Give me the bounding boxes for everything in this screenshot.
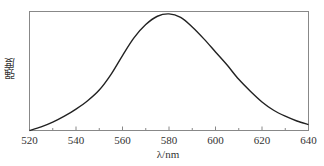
x-axis-ticks bbox=[30, 127, 309, 131]
chart: 520540560580600620640 λ/nm bbox=[0, 0, 324, 166]
y-axis-title: 强度 bbox=[4, 58, 18, 80]
x-tick-label: 520 bbox=[21, 134, 38, 146]
spectrum-curve bbox=[30, 14, 309, 131]
x-tick-label: 540 bbox=[68, 134, 85, 146]
x-tick-label: 560 bbox=[114, 134, 131, 146]
x-axis-tick-labels: 520540560580600620640 bbox=[21, 134, 317, 146]
x-tick-label: 640 bbox=[300, 134, 317, 146]
x-axis-title: λ/nm bbox=[157, 148, 180, 160]
x-tick-label: 620 bbox=[254, 134, 271, 146]
x-tick-label: 600 bbox=[207, 134, 224, 146]
x-tick-label: 580 bbox=[161, 134, 178, 146]
